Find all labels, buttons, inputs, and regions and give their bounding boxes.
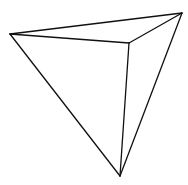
edge-left-bottom	[10, 34, 120, 176]
edge-inner-top_right	[129, 13, 182, 43]
edge-group	[10, 13, 182, 176]
edge-left-top_right	[10, 13, 182, 34]
tetrahedron-diagram	[0, 0, 188, 185]
edge-left-inner	[10, 34, 129, 43]
tetrahedron-svg	[0, 0, 188, 185]
edge-top_right-bottom	[120, 13, 182, 176]
